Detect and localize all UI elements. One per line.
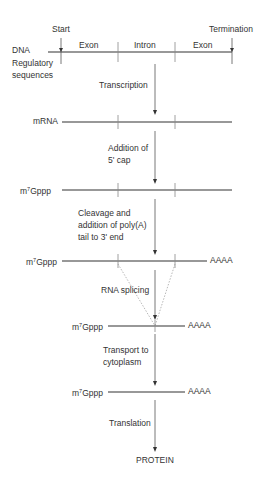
transport-label-2: cytoplasm <box>103 357 141 368</box>
polya-label-1: Cleavage and <box>78 208 130 219</box>
protein-label: PROTEIN <box>136 455 174 466</box>
splice-guide-right <box>155 264 175 326</box>
cap-molecule-label-2: m7Gppp <box>26 255 57 268</box>
cap-label-1: Addition of <box>108 143 148 154</box>
transport-label-1: Transport to <box>103 345 149 356</box>
start-label: Start <box>52 24 70 35</box>
polya-tail-label-2: AAAA <box>188 320 211 331</box>
regulatory-label-1: Regulatory <box>12 58 53 69</box>
polya-label-3: tail to 3' end <box>78 232 124 243</box>
arrow-head-icon <box>153 447 157 452</box>
polya-tail-label-3: AAAA <box>188 386 211 397</box>
termination-label: Termination <box>209 24 253 35</box>
cap-label-2: 5' cap <box>108 155 130 166</box>
transcription-label: Transcription <box>99 80 148 91</box>
exon-label-2: Exon <box>193 40 212 51</box>
exon-label-1: Exon <box>79 40 98 51</box>
arrow-head-icon <box>153 315 157 320</box>
polya-tail-label-1: AAAA <box>210 255 233 266</box>
cap-molecule-label-4: m7Gppp <box>72 386 103 399</box>
dna-label: DNA <box>12 45 30 56</box>
splicing-label: RNA splicing <box>101 285 149 296</box>
arrow-head-icon <box>153 179 157 184</box>
regulatory-label-2: sequences <box>12 70 53 81</box>
arrow-head-icon <box>153 381 157 386</box>
intron-label: Intron <box>134 40 156 51</box>
polya-label-2: addition of poly(A) <box>78 220 147 231</box>
translation-label: Translation <box>109 418 151 429</box>
arrow-head-icon <box>153 110 157 115</box>
arrow-head-icon <box>153 250 157 255</box>
cap-molecule-label-3: m7Gppp <box>72 320 103 333</box>
mrna-label: mRNA <box>33 116 58 127</box>
cap-molecule-label-1: m7Gppp <box>20 184 51 197</box>
